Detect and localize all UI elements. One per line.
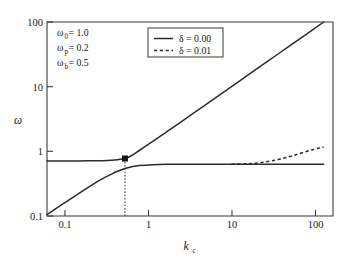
x-tick-label-2: 10 [227,219,238,230]
x-tick-label-1: 1 [146,219,151,230]
y-axis-title: ω [14,114,22,126]
annotation-row-0-value: = 1.0 [69,27,89,38]
y-tick-label-3: 100 [27,17,43,28]
y-tick-labels: 0.1 1 10 100 [27,17,43,222]
critical-point-group [122,155,128,216]
curve-lower-branch [47,164,324,214]
y-tick-label-2: 10 [33,82,44,93]
y-tick-label-1: 1 [38,146,43,157]
annotation-row-0-symbol: ω [57,27,64,38]
legend-label-1: δ = 0.01 [179,45,211,56]
figure-container: 0.1 1 10 100 0.1 1 10 100 ω k c ω 0 = 1.… [0,0,350,266]
annotation-row-2-symbol: ω [57,57,64,68]
x-tick-label-3: 100 [308,219,324,230]
branch-crossing-marker [122,155,128,161]
y-tick-label-0: 0.1 [30,211,43,222]
parameter-annotations: ω 0 = 1.0 ω p = 0.2 ω b = 0.5 [57,27,89,71]
annotation-row-2-value: = 0.5 [69,57,89,68]
y-axis-title-text: ω [14,114,22,126]
legend: δ = 0.00 δ = 0.01 [148,28,223,57]
legend-label-0: δ = 0.00 [179,33,211,44]
annotation-row-1-value: = 0.2 [69,42,89,53]
x-axis-title-text: k [183,240,189,252]
x-axis-ticks [65,210,316,216]
x-axis-title-subscript: c [193,247,196,255]
y-axis-ticks [47,22,53,216]
x-tick-label-0: 0.1 [58,219,71,230]
x-axis-title: k c [183,240,195,255]
annotation-row-1-symbol: ω [57,42,64,53]
curve-delta-001 [231,147,323,164]
log-log-plot: 0.1 1 10 100 0.1 1 10 100 ω k c ω 0 = 1.… [0,0,350,266]
x-tick-labels: 0.1 1 10 100 [58,219,323,230]
